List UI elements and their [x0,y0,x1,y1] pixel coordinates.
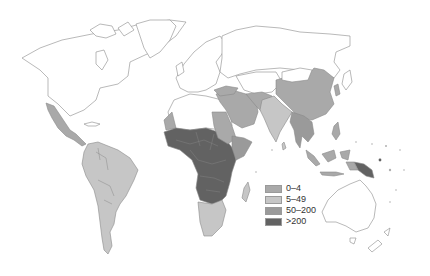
region-japan [342,70,352,90]
region-australia [322,180,376,232]
legend-label: >200 [286,216,306,227]
world-map [0,0,430,276]
region-korea [334,84,340,96]
legend-item-50-200: 50–200 [265,205,316,216]
region-new-zealand [368,228,390,252]
region-south-america [82,142,138,254]
region-horn-of-africa [232,136,252,160]
legend-item-5-49: 5–49 [265,194,316,205]
legend-swatch [265,218,282,226]
region-russia [220,26,350,78]
region-tasmania [350,238,356,244]
legend-label: 0–4 [286,183,301,194]
legend-label: 5–49 [286,194,306,205]
region-caribbean [84,122,100,126]
region-philippines [332,122,340,140]
legend-swatch [265,185,282,193]
legend-label: 50–200 [286,205,316,216]
region-central-asia [236,72,282,94]
region-mongolia [282,68,312,82]
region-southern-africa [198,200,226,236]
legend-swatch [265,196,282,204]
map-legend: 0–4 5–49 50–200 >200 [265,183,316,227]
legend-swatch [265,207,282,215]
region-indonesia [306,150,350,176]
region-sri-lanka [282,142,286,150]
legend-item-0-4: 0–4 [265,183,316,194]
region-europe [176,36,226,92]
region-madagascar [242,182,250,202]
legend-item-gt-200: >200 [265,216,316,227]
